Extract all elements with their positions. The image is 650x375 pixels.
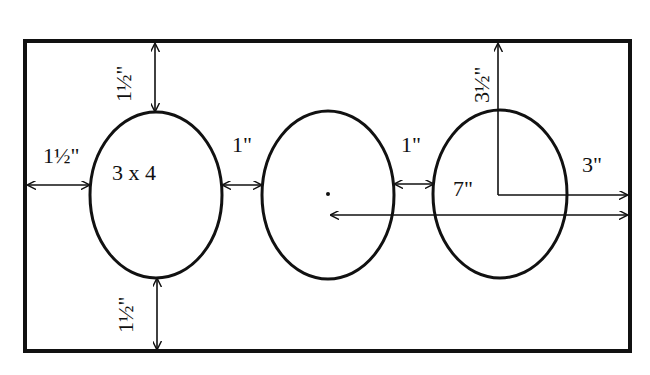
oval-1 xyxy=(90,112,222,278)
dot-to-edge-label: 7" xyxy=(453,176,473,201)
left-margin-label: 1½" xyxy=(43,143,79,168)
bottom-margin-label: 1½" xyxy=(113,297,138,333)
center-to-edge-label: 3" xyxy=(582,152,602,177)
oval-size-label: 3 x 4 xyxy=(112,160,156,185)
top-margin-label: 1½" xyxy=(111,66,136,102)
center-dot xyxy=(326,192,330,196)
oval-layout-diagram: 1½" 1½" 1½" 3 x 4 1" 1" 3½" 3" 7" xyxy=(0,0,650,375)
gap-1-label: 1" xyxy=(232,132,252,157)
center-height-label: 3½" xyxy=(469,67,494,103)
gap-2-label: 1" xyxy=(401,132,421,157)
